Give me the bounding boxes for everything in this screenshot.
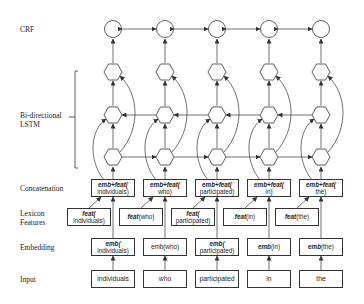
lstm-hex-node (260, 149, 278, 165)
lstm-hex-node (312, 107, 330, 123)
concat-box-1: emb+feat(who) (143, 179, 187, 197)
concat-box-2: emb+feat(participated) (195, 179, 239, 197)
embedding-box-0: emb(individuals) (91, 238, 135, 256)
vertical-arrows (89, 39, 321, 270)
concat-box-0: emb+feat(individuals) (91, 179, 135, 197)
lstm-hex-node (104, 107, 122, 123)
embedding-box-3: emb(in) (247, 238, 291, 256)
concat-box-4: emb+feat(the) (299, 179, 343, 197)
label-crf: CRF (20, 25, 34, 34)
lexicon-box-3: feat(in) (223, 208, 267, 226)
lstm-hex-node (156, 107, 174, 123)
lstm-hex-node (312, 149, 330, 165)
lstm-hex-node (104, 64, 122, 80)
crf-node (105, 21, 122, 38)
lexicon-box-4: feat(the) (275, 208, 319, 226)
crf-node (261, 21, 278, 38)
crf-node (157, 21, 174, 38)
label-input: Input (20, 275, 36, 284)
input-box-the: the (299, 270, 343, 288)
lexicon-box-2: feat(participated) (171, 208, 215, 226)
lexicon-box-1: feat(who) (119, 208, 163, 226)
label-bilstm: Bi-directional LSTM (20, 111, 62, 129)
label-lexicon-features: Lexicon Features (20, 209, 45, 227)
lstm-hex-node (208, 107, 226, 123)
label-embedding: Embedding (20, 243, 55, 252)
input-box-individuals: individuals (91, 270, 135, 288)
embedding-box-4: emb(the) (299, 238, 343, 256)
lstm-hex-node (312, 64, 330, 80)
lstm-hex-node (208, 64, 226, 80)
embedding-box-2: emb(participated) (195, 238, 239, 256)
lstm-hex-node (156, 64, 174, 80)
lexicon-box-0: feat(individuals) (67, 208, 111, 226)
crf-node (209, 21, 226, 38)
lstm-hex-node (156, 149, 174, 165)
lstm-hex-node (260, 64, 278, 80)
lstm-hex-node (104, 149, 122, 165)
lstm-hex-node (208, 149, 226, 165)
crf-node (313, 21, 330, 38)
diagram-canvas (0, 0, 364, 304)
embedding-box-1: emb(who) (143, 238, 187, 256)
lstm-bracket (69, 71, 78, 168)
lstm-nodes (104, 64, 330, 165)
input-box-who: who (143, 270, 187, 288)
lstm-hex-node (260, 107, 278, 123)
input-box-in: in (247, 270, 291, 288)
label-concatenation: Concatenation (20, 184, 63, 193)
concat-box-3: emb+feat(in) (247, 179, 291, 197)
input-box-participated: participated (195, 270, 239, 288)
